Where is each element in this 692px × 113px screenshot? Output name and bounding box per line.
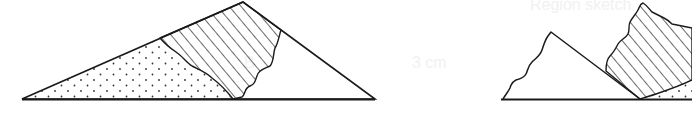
right-fragment: [501, 3, 692, 100]
diagram-canvas: [0, 0, 692, 113]
left-triangle: [22, 2, 375, 100]
hatched-region-right: [606, 3, 692, 99]
